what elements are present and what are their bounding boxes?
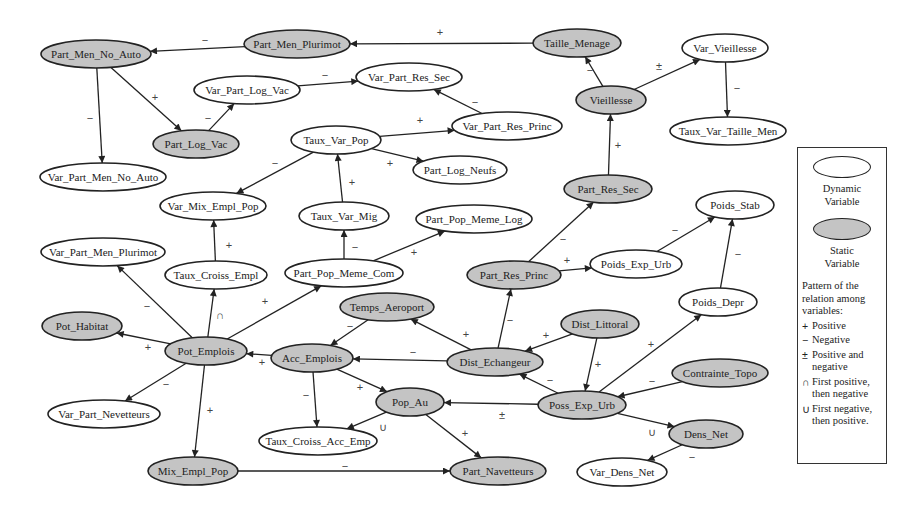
edge-dist-echangeur-to-acc-emplois: − bbox=[353, 346, 447, 361]
edge-vieillesse-to-taille-menage: − bbox=[585, 57, 603, 87]
edge-sign-label: − bbox=[272, 157, 278, 169]
causal-diagram: −+−+−−−++−+−+−±−+−+−−+∩−++−++−+−−−+∪+±++… bbox=[0, 0, 921, 516]
node-label: Taux_Var_Pop bbox=[303, 134, 369, 146]
edge-sign-label: + bbox=[543, 329, 549, 341]
edge-sign-label: − bbox=[734, 82, 740, 94]
node-var-part-men-no-auto: Var_Part_Men_No_Auto bbox=[40, 163, 166, 191]
edge-arrow-icon bbox=[313, 372, 317, 427]
edge-sign-label: − bbox=[342, 460, 348, 472]
node-var-dens-net: Var_Dens_Net bbox=[577, 458, 667, 486]
edge-sign-label: + bbox=[262, 295, 268, 307]
node-part-pop-meme-log: Part_Pop_Meme_Log bbox=[416, 205, 532, 233]
edge-sign-label: ∩ bbox=[216, 309, 224, 321]
edge-pot-emplois-to-taux-croiss-empl: ∩ bbox=[208, 289, 224, 337]
edge-sign-label: + bbox=[648, 338, 654, 350]
edge-arrow-icon bbox=[111, 67, 181, 130]
edge-arrow-icon bbox=[350, 43, 533, 44]
node-label: Part_Men_Plurimot bbox=[253, 38, 340, 50]
edge-temps-aeroport-to-acc-emplois: − bbox=[330, 320, 368, 346]
node-label: Mix_Empl_Pop bbox=[158, 465, 229, 477]
node-label: Var_Part_Nevetteurs bbox=[58, 408, 150, 420]
edge-sign-label: + bbox=[387, 157, 393, 169]
node-var-mix-empl-pop: Var_Mix_Empl_Pop bbox=[160, 192, 266, 220]
edge-sign-label: ± bbox=[656, 60, 662, 72]
edge-sign-label: − bbox=[689, 451, 695, 463]
node-label: Part_Log_Vac bbox=[165, 138, 228, 150]
node-part-res-princ: Part_Res_Princ bbox=[467, 261, 561, 289]
edge-acc-emplois-to-pot-emplois: + bbox=[246, 354, 271, 368]
edge-mix-empl-pop-to-part-navetteurs: − bbox=[238, 460, 450, 472]
edge-sign-label: ∪ bbox=[648, 426, 656, 438]
legend-dynamic-line2: Variable bbox=[798, 195, 886, 208]
node-var-part-men-plurimot: Var_Part_Men_Plurimot bbox=[41, 238, 165, 266]
edge-arrow-icon bbox=[720, 219, 732, 288]
node-var-part-res-sec: Var_Part_Res_Sec bbox=[356, 63, 462, 91]
edge-arrow-icon bbox=[657, 217, 715, 252]
edge-pot-emplois-to-pot-habitat: + bbox=[117, 333, 171, 353]
edge-var-part-log-vac-to-var-part-res-sec: − bbox=[298, 69, 359, 86]
edge-arrow-icon bbox=[617, 413, 674, 426]
node-taux-var-pop: Taux_Var_Pop bbox=[291, 126, 381, 154]
edge-arrow-icon bbox=[117, 333, 171, 344]
node-label: Dist_Littoral bbox=[572, 318, 629, 330]
edge-sign-label: − bbox=[87, 112, 93, 124]
edge-sign-label: + bbox=[226, 239, 232, 251]
node-part-men-plurimot: Part_Men_Plurimot bbox=[244, 30, 350, 58]
node-taux-var-mig: Taux_Var_Mig bbox=[299, 202, 389, 230]
edge-dist-littoral-to-poss-exp-urb: + bbox=[585, 338, 601, 391]
edge-sign-label: − bbox=[649, 375, 655, 387]
edge-arrow-icon bbox=[353, 359, 447, 361]
node-label: Taux_Var_Mig bbox=[311, 210, 378, 222]
edge-arrow-icon bbox=[373, 231, 445, 261]
edge-part-men-plurimot-to-part-men-no-auto: − bbox=[150, 34, 245, 51]
node-label: Var_Part_Res_Princ bbox=[462, 120, 551, 132]
edge-sign-label: − bbox=[163, 378, 169, 390]
legend-item-positive: + Positive bbox=[798, 318, 886, 333]
edge-arrow-icon bbox=[559, 268, 592, 271]
edge-acc-emplois-to-taux-croiss-acc-emp: − bbox=[303, 372, 317, 427]
edge-taille-menage-to-part-men-plurimot: + bbox=[350, 26, 533, 44]
cup-icon: ∪ bbox=[802, 403, 812, 428]
edge-taux-var-pop-to-var-mix-empl-pop: − bbox=[236, 152, 313, 193]
node-label: Var_Mix_Empl_Pop bbox=[167, 200, 259, 212]
edge-sign-label: ∪ bbox=[379, 421, 387, 433]
legend-dynamic-line1: Dynamic bbox=[798, 182, 886, 195]
node-taux-var-taille-men: Taux_Var_Taille_Men bbox=[670, 117, 786, 145]
edge-poss-exp-urb-to-dist-echangeur: − bbox=[519, 374, 558, 393]
node-label: Taux_Croiss_Empl bbox=[174, 269, 259, 281]
edge-arrow-icon bbox=[125, 363, 186, 401]
node-label: Part_Men_No_Auto bbox=[51, 48, 141, 60]
edge-dist-echangeur-to-temps-aeroport: + bbox=[411, 319, 471, 350]
edge-pot-emplois-to-mix-empl-pop: + bbox=[195, 365, 214, 457]
node-dens-net: Dens_Net bbox=[669, 420, 743, 448]
legend-heading: Pattern of the relation among variables: bbox=[798, 270, 886, 318]
node-pot-habitat: Pot_Habitat bbox=[42, 312, 122, 340]
edge-part-men-no-auto-to-part-log-vac: + bbox=[111, 67, 181, 130]
edge-arrow-icon bbox=[97, 68, 102, 163]
node-acc-emplois: Acc_Emplois bbox=[271, 344, 353, 372]
node-taille-menage: Taille_Menage bbox=[533, 29, 621, 57]
legend-item-u: ∪ First negative, then positive. bbox=[798, 401, 886, 428]
edge-arrow-icon bbox=[426, 414, 481, 457]
edge-arrow-icon bbox=[209, 104, 235, 131]
legend: Dynamic Variable Static Variable Pattern… bbox=[797, 147, 887, 464]
edge-arrow-icon bbox=[227, 286, 321, 339]
node-label: Temps_Aeroport bbox=[350, 301, 424, 313]
legend-item-inverted-u: ∩ First positive, then negative bbox=[798, 374, 886, 401]
edge-sign-label: − bbox=[410, 346, 416, 358]
edge-sign-label: − bbox=[303, 389, 309, 401]
node-taux-croiss-acc-emp: Taux_Croiss_Acc_Emp bbox=[259, 427, 377, 455]
edge-poss-exp-urb-to-dens-net: ∪ bbox=[617, 413, 674, 438]
node-dist-echangeur: Dist_Echangeur bbox=[447, 348, 543, 376]
edge-part-res-princ-to-part-res-sec: − bbox=[529, 202, 594, 261]
edge-sign-label: − bbox=[202, 34, 208, 46]
edge-acc-emplois-to-pop-au: + bbox=[337, 369, 387, 393]
edge-sign-label: + bbox=[152, 91, 158, 103]
edge-sign-label: − bbox=[472, 96, 478, 108]
node-label: Taux_Var_Taille_Men bbox=[679, 125, 778, 137]
edge-poids-exp-urb-to-poids-stab: − bbox=[657, 217, 715, 252]
edge-sign-label: + bbox=[564, 254, 570, 266]
legend-static-ellipse-icon bbox=[813, 218, 871, 240]
edge-sign-label: + bbox=[463, 328, 469, 340]
edge-arrow-icon bbox=[634, 59, 700, 89]
